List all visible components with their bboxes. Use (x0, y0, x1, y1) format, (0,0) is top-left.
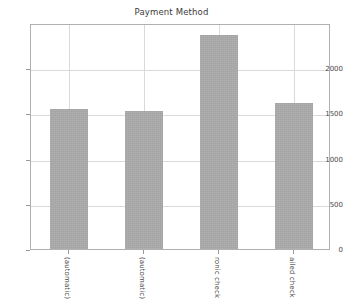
x-tick-mark (218, 250, 219, 254)
bar[interactable] (200, 35, 238, 249)
x-tick-mark (68, 250, 69, 254)
bar[interactable] (275, 103, 313, 249)
y-tick-label: 2000 (319, 65, 343, 73)
bar[interactable] (125, 111, 163, 249)
x-tick-label: (automatic) (138, 257, 146, 299)
y-tick-label: 1000 (319, 156, 343, 164)
figure-canvas: Payment Method 0500100015002000(automati… (0, 0, 343, 306)
x-tick-label: ronic check (213, 257, 221, 298)
y-tick-mark (26, 205, 30, 206)
y-tick-mark (26, 160, 30, 161)
chart-title: Payment Method (0, 7, 343, 17)
bar-series (31, 25, 329, 249)
y-tick-label: 1500 (319, 110, 343, 118)
x-tick-label: ailed check (288, 257, 296, 298)
x-tick-mark (293, 250, 294, 254)
y-tick-label: 500 (319, 201, 343, 209)
y-tick-mark (26, 250, 30, 251)
y-tick-label: 0 (319, 246, 343, 254)
y-tick-mark (26, 69, 30, 70)
plot-area (30, 24, 330, 250)
x-tick-label: (automatic) (63, 257, 71, 299)
x-tick-mark (143, 250, 144, 254)
bar[interactable] (50, 109, 88, 249)
y-tick-mark (26, 114, 30, 115)
